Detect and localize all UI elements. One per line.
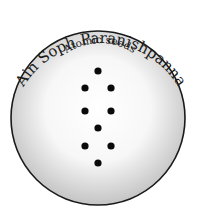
seed-dot <box>94 124 101 131</box>
seed-dot <box>94 159 101 166</box>
seed-dot <box>81 142 88 149</box>
seed-dot <box>94 67 101 74</box>
seed-dot <box>81 84 88 91</box>
seed-dot <box>107 107 114 114</box>
sphere-diagram: Ain Soph Paranishpanna Atomic seeds <box>0 0 198 220</box>
seed-dot <box>107 84 114 91</box>
seed-dot <box>107 142 114 149</box>
seed-dot <box>81 107 88 114</box>
